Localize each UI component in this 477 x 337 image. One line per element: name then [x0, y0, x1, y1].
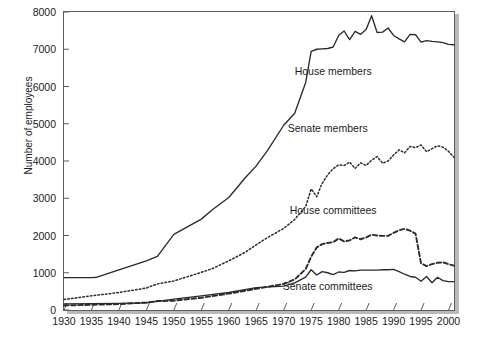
series-line: [64, 229, 454, 306]
chart-canvas: [0, 0, 477, 337]
chart-figure: Number of employees 01000200030004000500…: [0, 0, 477, 337]
series-line: [64, 16, 454, 278]
series-line: [64, 145, 454, 300]
series-line: [64, 269, 454, 304]
